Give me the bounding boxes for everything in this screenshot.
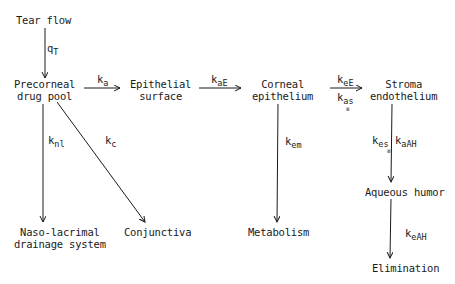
node-precorneal-line2: drug pool bbox=[14, 90, 75, 102]
node-epithelial-surface: Epithelial surface bbox=[130, 78, 191, 102]
node-corneal-line1: Corneal bbox=[252, 78, 313, 90]
handwritten-mark-kes: ≡ bbox=[387, 148, 391, 154]
node-metabolism-label: Metabolism bbox=[248, 226, 309, 238]
node-stroma-endothelium: Stroma endothelium bbox=[370, 78, 437, 102]
rate-ka: ka bbox=[97, 73, 108, 89]
node-elimination: Elimination bbox=[372, 262, 439, 274]
handwritten-mark-kas: ≡ bbox=[346, 106, 350, 112]
node-nasolacrimal-drainage: Naso-lacrimal drainage system bbox=[14, 226, 106, 250]
node-corneal-epithelium: Corneal epithelium bbox=[252, 78, 313, 102]
node-epithelial-line1: Epithelial bbox=[130, 78, 191, 90]
rate-knl: knl bbox=[48, 134, 65, 150]
node-tear-flow: Tear flow bbox=[16, 14, 71, 26]
rate-kaE: kaE bbox=[211, 73, 228, 89]
node-stroma-line2: endothelium bbox=[370, 90, 437, 102]
arrow-kc bbox=[57, 102, 145, 222]
rate-kc: kc bbox=[105, 134, 116, 150]
arrow-kes bbox=[391, 104, 392, 182]
rate-kaAH-sub: aAH bbox=[401, 139, 416, 149]
node-aqueous-humor-label: Aqueous humor bbox=[365, 186, 445, 198]
rate-kaAH: kaAH bbox=[395, 134, 417, 150]
rate-ka-sub: a bbox=[103, 78, 108, 88]
rate-kem-sub: em bbox=[291, 140, 301, 150]
node-conjunctiva-label: Conjunctiva bbox=[124, 226, 191, 238]
rate-qT-sub: T bbox=[53, 47, 58, 57]
rate-knl-sub: nl bbox=[54, 139, 64, 149]
node-nasolacrimal-line2: drainage system bbox=[14, 238, 106, 250]
arrow-kem bbox=[277, 104, 278, 222]
node-precorneal-drug-pool: Precorneal drug pool bbox=[14, 78, 75, 102]
rate-keAH: keAH bbox=[405, 227, 427, 243]
node-conjunctiva: Conjunctiva bbox=[124, 226, 191, 238]
node-elimination-label: Elimination bbox=[372, 262, 439, 274]
rate-keE-sub: eE bbox=[343, 78, 353, 88]
rate-keE: keE bbox=[337, 73, 354, 89]
node-precorneal-line1: Precorneal bbox=[14, 78, 75, 90]
node-corneal-line2: epithelium bbox=[252, 90, 313, 102]
rate-keAH-sub: eAH bbox=[411, 232, 426, 242]
rate-kc-sub: c bbox=[111, 139, 116, 149]
node-stroma-line1: Stroma bbox=[370, 78, 437, 90]
arrow-keAH bbox=[390, 199, 391, 258]
node-epithelial-line2: surface bbox=[130, 90, 191, 102]
rate-kaE-sub: aE bbox=[217, 78, 227, 88]
node-nasolacrimal-line1: Naso-lacrimal bbox=[14, 226, 106, 238]
node-aqueous-humor: Aqueous humor bbox=[365, 186, 445, 198]
node-metabolism: Metabolism bbox=[248, 226, 309, 238]
rate-kem: kem bbox=[285, 135, 302, 151]
rate-qT: qT bbox=[47, 42, 58, 58]
node-tear-flow-label: Tear flow bbox=[16, 14, 71, 26]
